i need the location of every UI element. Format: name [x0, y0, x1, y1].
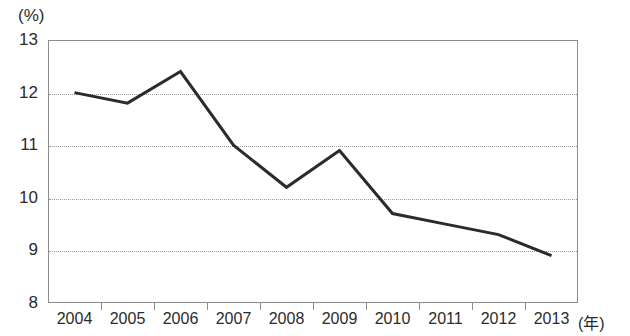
x-tick-mark [472, 303, 473, 310]
x-tick-label-2012: 2012 [481, 310, 517, 328]
x-tick-mark [101, 303, 102, 310]
x-tick-label-2008: 2008 [269, 310, 305, 328]
x-tick-label-2004: 2004 [57, 310, 93, 328]
x-tick-mark [366, 303, 367, 310]
x-tick-label-2006: 2006 [163, 310, 199, 328]
y-tick-label-12: 12 [4, 83, 38, 103]
x-tick-label-2005: 2005 [110, 310, 146, 328]
gridline-11 [49, 146, 577, 147]
x-tick-mark [207, 303, 208, 310]
x-tick-mark [260, 303, 261, 310]
x-tick-label-2009: 2009 [322, 310, 358, 328]
plot-area [48, 40, 578, 303]
y-axis-unit-label: (%) [18, 6, 44, 26]
gridline-12 [49, 94, 577, 95]
y-tick-label-11: 11 [4, 135, 38, 155]
x-tick-mark [419, 303, 420, 310]
gridline-9 [49, 251, 577, 252]
y-tick-label-13: 13 [4, 30, 38, 50]
x-tick-mark [313, 303, 314, 310]
x-axis-unit-label: (年) [578, 310, 605, 334]
x-tick-mark [154, 303, 155, 310]
x-tick-mark [525, 303, 526, 310]
x-tick-label-2011: 2011 [428, 310, 462, 328]
y-tick-label-9: 9 [4, 240, 38, 260]
line-chart: (%) 13 12 11 10 9 8 2004 2005 2006 2007 … [0, 0, 630, 336]
y-tick-label-8: 8 [4, 293, 38, 313]
x-tick-label-2007: 2007 [216, 310, 252, 328]
y-tick-label-10: 10 [4, 188, 38, 208]
x-tick-label-2013: 2013 [534, 310, 570, 328]
x-tick-label-2010: 2010 [375, 310, 411, 328]
gridline-10 [49, 199, 577, 200]
